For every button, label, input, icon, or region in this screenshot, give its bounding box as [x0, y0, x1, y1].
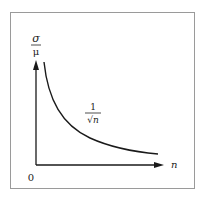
inverse-sqrt-curve	[44, 62, 158, 154]
x-axis-arrow-icon	[154, 162, 164, 168]
curve-label-denominator: √n	[87, 115, 99, 125]
y-label-numerator: σ	[32, 32, 40, 45]
y-axis-arrow-icon	[33, 60, 39, 70]
x-axis-label: n	[171, 159, 177, 170]
curve-label-numerator: 1	[90, 102, 96, 112]
y-label-denominator: μ	[33, 46, 40, 57]
origin-label: 0	[28, 172, 34, 183]
diagram-canvas: σ μ 1 √n n 0	[0, 0, 206, 198]
